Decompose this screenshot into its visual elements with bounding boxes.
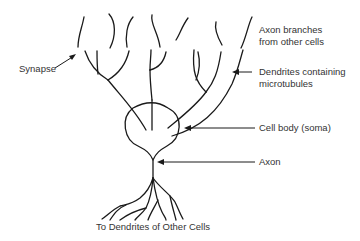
cell-body-label: Cell body (soma): [259, 122, 331, 134]
label-arrows: [55, 56, 255, 162]
synapse-label: Synapse: [19, 63, 56, 75]
synapse-arrow-head: [69, 54, 76, 60]
dendrites-label-line2: microtubules: [259, 78, 346, 90]
axon-branches-label-line2: from other cells: [259, 36, 324, 48]
axon-branches-label-line1: Axon branches: [259, 24, 324, 36]
axon-arrow-head: [157, 159, 164, 165]
bottom-label: To Dendrites of Other Cells: [96, 221, 210, 233]
dendrites-label: Dendrites containing microtubules: [259, 66, 346, 90]
axon-branches: [78, 14, 252, 48]
axon-label: Axon: [259, 156, 281, 168]
arrow-heads: [69, 54, 239, 165]
axon-terminals: [102, 178, 183, 220]
dendrites-label-line1: Dendrites containing: [259, 66, 346, 78]
dendrites: [85, 50, 243, 136]
axon-branches-label: Axon branches from other cells: [259, 24, 324, 48]
